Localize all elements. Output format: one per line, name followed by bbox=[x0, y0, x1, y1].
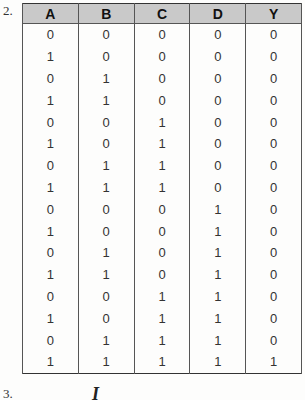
table-cell-a: 1 bbox=[23, 220, 79, 242]
table-cell-c: 1 bbox=[134, 133, 190, 155]
table-cell-b: 1 bbox=[78, 242, 134, 264]
table-cell-c: 0 bbox=[134, 264, 190, 286]
table-row: 00110 bbox=[23, 286, 302, 308]
table-row: 01100 bbox=[23, 155, 302, 177]
table-cell-a: 1 bbox=[23, 133, 79, 155]
table-cell-y: 0 bbox=[246, 177, 302, 199]
table-row: 00000 bbox=[23, 24, 302, 46]
table-cell-c: 0 bbox=[134, 89, 190, 111]
table-cell-b: 0 bbox=[78, 220, 134, 242]
table-cell-b: 1 bbox=[78, 329, 134, 351]
table-cell-b: 1 bbox=[78, 155, 134, 177]
table-cell-d: 0 bbox=[190, 68, 246, 90]
table-cell-c: 1 bbox=[134, 155, 190, 177]
table-cell-a: 0 bbox=[23, 286, 79, 308]
table-cell-y: 0 bbox=[246, 155, 302, 177]
table-cell-d: 0 bbox=[190, 111, 246, 133]
column-header-c: C bbox=[134, 4, 190, 24]
table-body: 0000010000010001100000100101000110011100… bbox=[23, 24, 302, 374]
table-cell-a: 1 bbox=[23, 177, 79, 199]
table-cell-d: 0 bbox=[190, 155, 246, 177]
table-row: 01010 bbox=[23, 242, 302, 264]
table-cell-b: 0 bbox=[78, 198, 134, 220]
table-cell-a: 0 bbox=[23, 198, 79, 220]
table-cell-y: 1 bbox=[246, 351, 302, 373]
column-header-d: D bbox=[190, 4, 246, 24]
table-cell-c: 1 bbox=[134, 351, 190, 373]
table-cell-d: 0 bbox=[190, 133, 246, 155]
table-cell-y: 0 bbox=[246, 307, 302, 329]
table-row: 01110 bbox=[23, 329, 302, 351]
table-cell-a: 0 bbox=[23, 24, 79, 46]
table-row: 10000 bbox=[23, 46, 302, 68]
table-cell-y: 0 bbox=[246, 46, 302, 68]
table-cell-d: 0 bbox=[190, 89, 246, 111]
table-cell-c: 0 bbox=[134, 198, 190, 220]
table-row: 11000 bbox=[23, 89, 302, 111]
table-cell-b: 0 bbox=[78, 46, 134, 68]
table-cell-b: 0 bbox=[78, 24, 134, 46]
table-row: 10010 bbox=[23, 220, 302, 242]
item-number-3: 3. bbox=[3, 386, 13, 400]
table-cell-c: 1 bbox=[134, 177, 190, 199]
table-row: 00010 bbox=[23, 198, 302, 220]
table-cell-d: 1 bbox=[190, 242, 246, 264]
table-cell-b: 1 bbox=[78, 68, 134, 90]
table-cell-y: 0 bbox=[246, 68, 302, 90]
table-cell-b: 1 bbox=[78, 89, 134, 111]
table-cell-a: 1 bbox=[23, 351, 79, 373]
table-cell-a: 1 bbox=[23, 307, 79, 329]
table-cell-b: 0 bbox=[78, 286, 134, 308]
table-cell-a: 0 bbox=[23, 68, 79, 90]
truth-table: A B C D Y 000001000001000110000010010100… bbox=[22, 3, 302, 374]
table-cell-a: 0 bbox=[23, 155, 79, 177]
table-cell-c: 0 bbox=[134, 220, 190, 242]
table-cell-b: 0 bbox=[78, 133, 134, 155]
table-cell-y: 0 bbox=[246, 198, 302, 220]
table-cell-c: 1 bbox=[134, 111, 190, 133]
table-cell-c: 1 bbox=[134, 329, 190, 351]
table-cell-d: 1 bbox=[190, 307, 246, 329]
partial-figure-glyph: I bbox=[92, 384, 99, 400]
table-cell-y: 0 bbox=[246, 220, 302, 242]
table-cell-a: 1 bbox=[23, 46, 79, 68]
table-cell-y: 0 bbox=[246, 264, 302, 286]
table-cell-b: 1 bbox=[78, 264, 134, 286]
table-cell-y: 0 bbox=[246, 111, 302, 133]
table-cell-d: 1 bbox=[190, 198, 246, 220]
table-cell-d: 0 bbox=[190, 24, 246, 46]
column-header-b: B bbox=[78, 4, 134, 24]
table-cell-y: 0 bbox=[246, 242, 302, 264]
table-cell-y: 0 bbox=[246, 24, 302, 46]
table-cell-a: 1 bbox=[23, 264, 79, 286]
table-cell-b: 1 bbox=[78, 177, 134, 199]
column-header-a: A bbox=[23, 4, 79, 24]
table-cell-a: 1 bbox=[23, 89, 79, 111]
table-row: 11010 bbox=[23, 264, 302, 286]
table-cell-b: 1 bbox=[78, 351, 134, 373]
table-cell-c: 0 bbox=[134, 68, 190, 90]
table-cell-y: 0 bbox=[246, 89, 302, 111]
table-cell-d: 1 bbox=[190, 264, 246, 286]
table-cell-d: 1 bbox=[190, 220, 246, 242]
table-cell-a: 0 bbox=[23, 329, 79, 351]
table-cell-d: 1 bbox=[190, 351, 246, 373]
table-cell-y: 0 bbox=[246, 133, 302, 155]
table-row: 10100 bbox=[23, 133, 302, 155]
table-cell-d: 0 bbox=[190, 177, 246, 199]
table-row: 11100 bbox=[23, 177, 302, 199]
column-header-y: Y bbox=[246, 4, 302, 24]
table-cell-d: 1 bbox=[190, 329, 246, 351]
table-row: 01000 bbox=[23, 68, 302, 90]
table-row: 00100 bbox=[23, 111, 302, 133]
table-cell-b: 0 bbox=[78, 111, 134, 133]
table-cell-c: 0 bbox=[134, 242, 190, 264]
item-number-2: 2. bbox=[3, 3, 13, 19]
table-cell-c: 0 bbox=[134, 46, 190, 68]
table-cell-d: 1 bbox=[190, 286, 246, 308]
table-cell-c: 0 bbox=[134, 24, 190, 46]
table-cell-b: 0 bbox=[78, 307, 134, 329]
table-cell-c: 1 bbox=[134, 286, 190, 308]
table-cell-c: 1 bbox=[134, 307, 190, 329]
table-cell-y: 0 bbox=[246, 286, 302, 308]
